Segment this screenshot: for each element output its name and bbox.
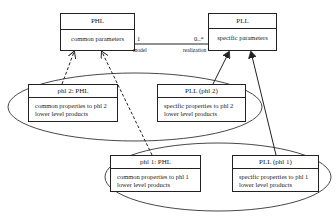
class-box-pll-phl2: PLL (phl 2) specific properties to phl 2… xyxy=(157,84,246,122)
class-body-line: lower level products xyxy=(164,110,239,118)
class-body-line: common parameters xyxy=(61,30,134,47)
role-from: model xyxy=(133,47,147,54)
multiplicity-to: 0..* xyxy=(194,35,204,42)
class-body: specific properties to phl 1 lower level… xyxy=(233,169,318,193)
solid-arrow-pllphl2-to-pll xyxy=(213,52,229,84)
class-body-line: specific properties to phl 1 xyxy=(239,173,312,181)
class-body-line: common properties to phl 1 xyxy=(117,173,194,181)
class-body: common properties to phl 1 lower level p… xyxy=(111,169,200,193)
class-body-line: lower level products xyxy=(117,181,194,189)
class-title: PLL xyxy=(209,14,276,29)
class-body: common properties to phl 2 lower level p… xyxy=(29,98,117,122)
multiplicity-from: 1 xyxy=(137,35,140,42)
class-box-phl1: phl 1: PHL common properties to phl 1 lo… xyxy=(110,155,201,192)
class-body: specific properties to phl 2 lower level… xyxy=(158,98,245,122)
class-body-line: specific properties to phl 2 xyxy=(164,102,239,110)
class-box-pll: PLL specific parameters xyxy=(208,13,277,51)
role-to: realization xyxy=(183,47,206,54)
class-body-line: lower level products xyxy=(35,110,111,118)
class-body-line: common properties to phl 2 xyxy=(35,102,111,110)
class-title: PLL (phl 2) xyxy=(158,85,245,98)
class-title: PHL xyxy=(61,14,134,30)
class-body-line: specific parameters xyxy=(209,29,276,46)
class-title: phl 2: PHL xyxy=(29,85,117,98)
dashed-arrow-phl2-to-phl xyxy=(62,52,74,84)
class-box-phl2: phl 2: PHL common properties to phl 2 lo… xyxy=(28,84,118,122)
class-title: phl 1: PHL xyxy=(111,156,200,169)
class-body-line: lower level products xyxy=(239,181,312,189)
solid-arrow-pllphl1-to-pll xyxy=(251,52,276,155)
class-box-phl: PHL common parameters xyxy=(60,13,135,51)
class-box-pll-phl1: PLL (phl 1) specific properties to phl 1… xyxy=(232,155,319,192)
class-title: PLL (phl 1) xyxy=(233,156,318,169)
